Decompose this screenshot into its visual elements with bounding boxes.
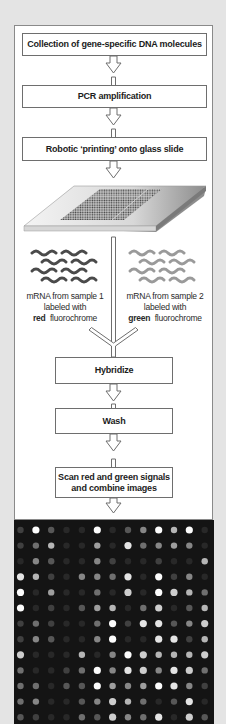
array-spot bbox=[79, 636, 85, 642]
array-spot bbox=[33, 589, 39, 595]
array-spot bbox=[155, 714, 162, 721]
sample-1-color-word: red bbox=[33, 313, 46, 323]
glass-slide-illustration bbox=[24, 186, 206, 232]
array-spot bbox=[186, 698, 193, 705]
array-spot bbox=[94, 542, 100, 548]
array-spot bbox=[109, 667, 115, 673]
array-spot bbox=[171, 714, 177, 720]
array-spot bbox=[171, 698, 177, 704]
array-spot bbox=[155, 682, 162, 689]
sample-2-fluorochrome: fluorochrome bbox=[155, 313, 202, 323]
array-spot bbox=[140, 667, 147, 674]
array-spot bbox=[109, 652, 115, 658]
array-spot bbox=[79, 574, 85, 580]
array-spot bbox=[94, 589, 100, 595]
array-spot bbox=[140, 527, 146, 533]
array-spot bbox=[94, 620, 100, 626]
array-spot bbox=[109, 714, 116, 721]
array-spot bbox=[94, 682, 101, 689]
array-spot bbox=[140, 558, 146, 564]
step-scan: Scan red and green signals and combine i… bbox=[55, 467, 173, 498]
sample-2-line1: mRNA from sample 2 bbox=[121, 291, 209, 302]
array-spot bbox=[33, 620, 39, 626]
array-spot bbox=[33, 636, 39, 642]
array-spot bbox=[202, 574, 208, 580]
step-scan-label-line1: Scan red and green signals bbox=[58, 472, 170, 483]
array-spot bbox=[109, 698, 116, 705]
array-spot bbox=[48, 714, 54, 720]
array-spot bbox=[63, 527, 69, 533]
sample-1-label: mRNA from sample 1 labeled with red fluo… bbox=[22, 291, 108, 324]
array-spot bbox=[79, 542, 85, 548]
array-spot bbox=[48, 667, 54, 673]
step-wash: Wash bbox=[55, 408, 173, 434]
array-spot bbox=[140, 620, 147, 627]
array-spot bbox=[48, 620, 54, 626]
array-spot bbox=[156, 558, 162, 564]
array-spot bbox=[79, 667, 85, 673]
array-spot bbox=[202, 636, 208, 642]
array-spot bbox=[94, 714, 100, 720]
arrow-down-icon bbox=[106, 498, 121, 513]
array-spot bbox=[109, 574, 115, 580]
array-spot bbox=[124, 542, 131, 549]
microarray-scan-image bbox=[14, 520, 214, 724]
array-spot bbox=[186, 652, 192, 658]
sample-1-line3: red fluorochrome bbox=[22, 313, 108, 324]
array-spot bbox=[33, 605, 39, 611]
step-pcr-amplification: PCR amplification bbox=[22, 85, 207, 108]
array-spot bbox=[202, 698, 208, 704]
array-spot bbox=[156, 542, 162, 548]
array-spot bbox=[186, 574, 192, 580]
array-spot bbox=[125, 605, 131, 611]
array-spot bbox=[186, 636, 192, 642]
step-printing-label: Robotic ‘printing’ onto glass slide bbox=[46, 144, 184, 155]
array-spot bbox=[33, 698, 39, 704]
array-spot bbox=[48, 683, 54, 689]
array-spot bbox=[155, 573, 162, 580]
array-spot bbox=[63, 589, 69, 595]
array-spot bbox=[63, 620, 69, 626]
array-spot bbox=[48, 589, 54, 595]
array-spot bbox=[171, 574, 177, 580]
mrna-strands-sample-2 bbox=[130, 251, 194, 282]
array-spot bbox=[109, 589, 115, 595]
array-spot bbox=[63, 683, 69, 689]
array-spot bbox=[109, 542, 115, 548]
connector-line bbox=[112, 237, 116, 344]
array-spot bbox=[109, 683, 115, 689]
array-spot bbox=[17, 698, 23, 704]
array-spot bbox=[48, 652, 54, 658]
array-spot bbox=[125, 683, 131, 689]
mrna-strands-sample-1 bbox=[32, 251, 96, 282]
array-spot bbox=[17, 573, 24, 580]
step-robotic-printing: Robotic ‘printing’ onto glass slide bbox=[22, 137, 207, 161]
arrow-down-icon bbox=[106, 434, 121, 467]
sample-1-line2: labeled with bbox=[22, 302, 108, 313]
array-spot bbox=[33, 574, 39, 580]
array-spot bbox=[63, 605, 69, 611]
array-spot bbox=[17, 651, 24, 658]
array-spot bbox=[94, 605, 100, 611]
array-spot bbox=[63, 698, 69, 704]
sample-2-line2: labeled with bbox=[121, 302, 209, 313]
array-spot bbox=[33, 683, 39, 689]
microarray-spots bbox=[14, 520, 214, 724]
array-spot bbox=[94, 667, 101, 674]
array-spot bbox=[109, 527, 115, 533]
array-spot bbox=[33, 558, 39, 564]
array-spot bbox=[140, 636, 146, 642]
array-spot bbox=[186, 589, 192, 595]
array-spot bbox=[156, 652, 162, 658]
array-spot bbox=[171, 527, 177, 533]
step-hybridize: Hybridize bbox=[55, 357, 173, 384]
array-spot bbox=[79, 652, 85, 658]
array-spot bbox=[32, 526, 39, 533]
array-spot bbox=[140, 542, 146, 548]
array-spot bbox=[140, 589, 146, 595]
array-spot bbox=[155, 636, 162, 643]
sample-2-line3: green fluorochrome bbox=[121, 313, 209, 324]
array-spot bbox=[17, 636, 23, 642]
sample-2-color-word: green bbox=[128, 313, 150, 323]
array-spot bbox=[124, 573, 131, 580]
